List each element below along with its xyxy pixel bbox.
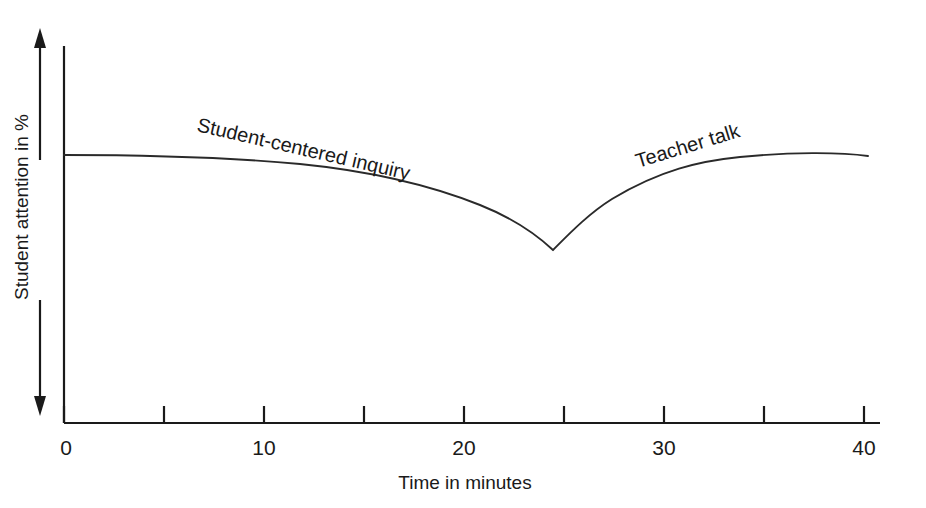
x-tick-label-10: 10 (252, 436, 275, 459)
attention-curve-chart: Student attention in % 0 10 20 30 40 Tim… (0, 0, 926, 508)
chart-background (0, 0, 926, 508)
y-axis-title: Student attention in % (11, 114, 32, 300)
x-tick-label-40: 40 (852, 436, 875, 459)
x-axis-title: Time in minutes (398, 472, 531, 493)
x-tick-label-20: 20 (452, 436, 475, 459)
x-tick-label-30: 30 (652, 436, 675, 459)
x-tick-label-0: 0 (60, 436, 72, 459)
